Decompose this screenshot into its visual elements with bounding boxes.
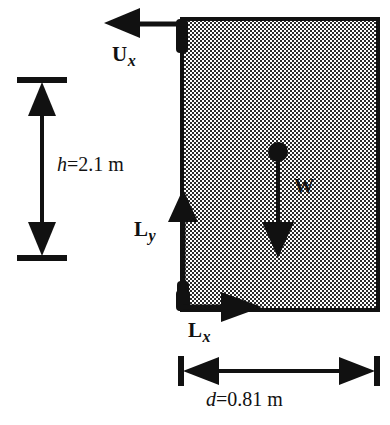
d-unit: m bbox=[267, 388, 283, 410]
ux-symbol: U bbox=[112, 42, 127, 66]
h-unit: m bbox=[108, 153, 124, 175]
dimension-label-h: h=2.1 m bbox=[57, 154, 124, 174]
h-value: 2.1 bbox=[78, 153, 103, 175]
d-arrowhead-right bbox=[339, 357, 375, 385]
lx-subscript: x bbox=[203, 328, 211, 345]
dimension-d bbox=[181, 356, 377, 386]
d-value: 0.81 bbox=[227, 388, 262, 410]
ly-subscript: y bbox=[149, 227, 156, 244]
force-label-ux: Ux bbox=[112, 44, 136, 69]
ux-arrowhead bbox=[104, 8, 140, 38]
force-label-lx: Lx bbox=[188, 320, 211, 345]
d-symbol: d bbox=[206, 388, 216, 410]
h-symbol: h bbox=[57, 153, 67, 175]
ux-subscript: x bbox=[128, 52, 136, 69]
h-arrowhead-down bbox=[28, 222, 56, 256]
force-label-ly: Ly bbox=[134, 219, 156, 244]
d-equals: = bbox=[216, 388, 227, 410]
lx-symbol: L bbox=[188, 318, 202, 342]
w-symbol: W bbox=[294, 175, 314, 197]
d-arrowhead-left bbox=[183, 357, 219, 385]
dimension-label-d: d=0.81 m bbox=[206, 389, 283, 409]
force-label-w: W bbox=[294, 176, 314, 196]
free-body-diagram: Ux Ly Lx W h=2.1 m d=0.81 m bbox=[0, 0, 390, 425]
h-arrowhead-up bbox=[28, 82, 56, 116]
ly-symbol: L bbox=[134, 217, 148, 241]
h-equals: = bbox=[67, 153, 78, 175]
diagram-canvas bbox=[0, 0, 390, 425]
